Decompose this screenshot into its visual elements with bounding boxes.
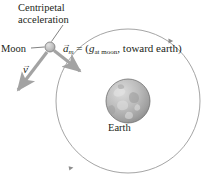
earth-label: Earth [108, 122, 131, 133]
velocity-vector-symbol: →v [23, 64, 28, 76]
vector-arrow-accent: → [63, 41, 68, 49]
equation-close-paren: ) [178, 42, 182, 54]
moon-label: Moon [1, 43, 26, 54]
physics-diagram-figure: Centripetal acceleration Moon Earth →am … [0, 0, 203, 194]
equation-comma: , [117, 42, 120, 54]
orbit-arrow-lower-left-icon [69, 166, 74, 170]
moon-sphere [45, 42, 55, 52]
equation-a-subscript: m [69, 48, 74, 56]
acceleration-equation: →am = (gat moon, toward earth) [63, 43, 182, 56]
velocity-symbol-label: →v [23, 64, 28, 76]
diagram-canvas [0, 0, 203, 194]
moon-leader-line [31, 47, 45, 48]
acceleration-vector-symbol: →a [63, 43, 69, 55]
equation-direction-text: toward earth [123, 42, 178, 54]
centripetal-leader-line [52, 25, 64, 42]
equation-g-subscript: at moon [94, 48, 117, 56]
centripetal-acceleration-label: Centripetal acceleration [18, 2, 84, 26]
equation-equals: = [76, 42, 82, 54]
velocity-arrow-accent: → [23, 62, 27, 70]
